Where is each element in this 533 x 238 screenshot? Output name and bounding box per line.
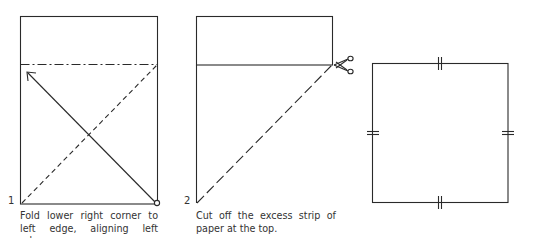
dashed-cut-diagonal	[197, 65, 332, 203]
step-2-figure	[197, 17, 354, 204]
diagram-canvas	[0, 0, 533, 238]
final-square	[373, 64, 509, 203]
step-2-number: 2	[184, 196, 190, 206]
step-1-figure	[21, 17, 160, 206]
pivot-circle-icon	[154, 200, 159, 205]
step-1-number: 1	[8, 196, 14, 206]
step-2-caption: Cut off the excess strip of paper at the…	[196, 210, 336, 235]
step-3-figure	[367, 57, 514, 209]
step-1-caption: Fold lower right corner to left edge, al…	[20, 210, 158, 238]
dashed-diagonal-fold-line	[22, 65, 157, 203]
fold-arrow-line	[28, 73, 155, 202]
scissors-icon	[334, 56, 353, 74]
excess-strip	[197, 17, 333, 66]
paper-rectangle	[21, 17, 158, 205]
